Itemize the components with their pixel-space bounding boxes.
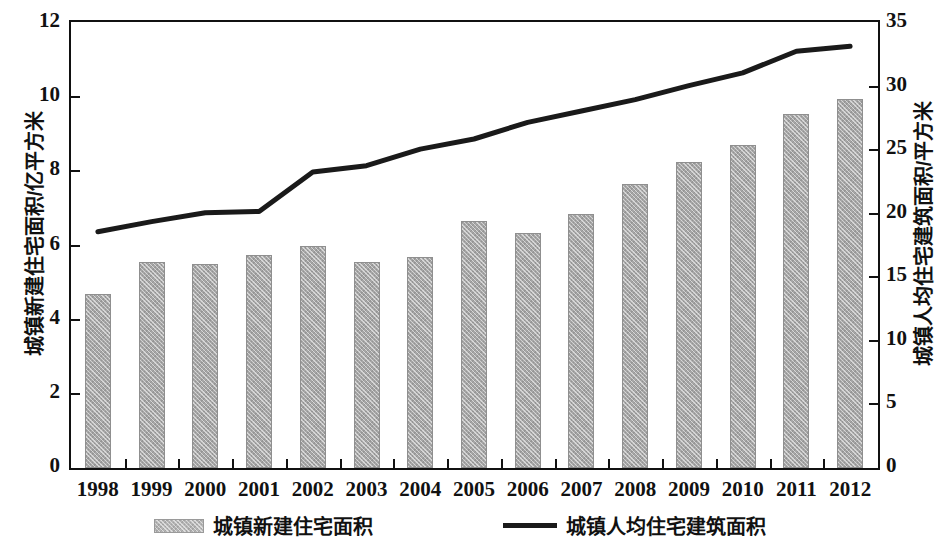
x-tick-label-2010: 2010 xyxy=(722,477,764,502)
y-tick-mark-left xyxy=(71,245,80,247)
y-tick-label-left-2: 2 xyxy=(50,381,61,402)
x-tick-mark xyxy=(125,459,127,468)
y-tick-mark-left xyxy=(71,393,80,395)
x-tick-label-2007: 2007 xyxy=(560,477,602,502)
x-tick-mark xyxy=(608,459,610,468)
y-tick-label-right-25: 25 xyxy=(886,137,907,158)
y-tick-mark-right xyxy=(869,86,878,88)
x-tick-mark xyxy=(770,459,772,468)
x-tick-label-2011: 2011 xyxy=(776,477,817,502)
y-tick-label-right-5: 5 xyxy=(886,391,897,412)
y-tick-mark-left xyxy=(71,96,80,98)
x-tick-label-1998: 1998 xyxy=(77,477,119,502)
x-tick-label-2003: 2003 xyxy=(346,477,388,502)
x-tick-label-2009: 2009 xyxy=(668,477,710,502)
line-series-path xyxy=(98,46,850,232)
x-tick-label-2002: 2002 xyxy=(292,477,334,502)
x-tick-mark xyxy=(178,459,180,468)
legend-item-bars: 城镇新建住宅面积 xyxy=(154,511,373,539)
y-tick-mark-left xyxy=(71,170,80,172)
y-tick-label-right-15: 15 xyxy=(886,264,907,285)
y-tick-label-right-30: 30 xyxy=(886,74,907,95)
line-series-layer xyxy=(71,22,877,467)
y-tick-label-left-10: 10 xyxy=(39,84,60,105)
chart-figure: 城镇新建住宅面积/亿平方米 城镇人均住宅建筑面积/平方米 024681012 0… xyxy=(0,0,938,539)
plot-area xyxy=(69,20,880,470)
x-tick-mark xyxy=(340,459,342,468)
y-tick-label-left-6: 6 xyxy=(50,233,61,254)
y-tick-label-right-0: 0 xyxy=(886,455,897,476)
x-tick-label-2008: 2008 xyxy=(614,477,656,502)
chart-legend: 城镇新建住宅面积 城镇人均住宅建筑面积 xyxy=(69,512,880,539)
y-tick-mark-left xyxy=(71,319,80,321)
legend-label-bars: 城镇新建住宅面积 xyxy=(213,511,373,539)
x-tick-mark xyxy=(716,459,718,468)
legend-item-line: 城镇人均住宅建筑面积 xyxy=(503,511,766,539)
y-tick-mark-right xyxy=(869,213,878,215)
x-tick-label-2004: 2004 xyxy=(399,477,441,502)
y-tick-label-right-35: 35 xyxy=(886,10,907,31)
x-axis-tick-labels: 1998199920002001200220032004200520062007… xyxy=(69,477,880,507)
x-tick-mark xyxy=(662,459,664,468)
x-tick-label-2001: 2001 xyxy=(238,477,280,502)
y-tick-mark-right xyxy=(869,340,878,342)
x-tick-label-2012: 2012 xyxy=(829,477,871,502)
y-tick-label-left-12: 12 xyxy=(39,10,60,31)
y-tick-label-right-10: 10 xyxy=(886,328,907,349)
y-tick-mark-right xyxy=(869,149,878,151)
x-tick-mark xyxy=(823,459,825,468)
x-tick-mark xyxy=(232,459,234,468)
y-axis-left-ticks: 024681012 xyxy=(12,0,60,539)
plot-inner xyxy=(71,22,878,468)
x-tick-mark xyxy=(501,459,503,468)
y-tick-mark-right xyxy=(869,403,878,405)
y-tick-label-left-8: 8 xyxy=(50,158,61,179)
y-tick-mark-right xyxy=(869,276,878,278)
x-tick-label-2000: 2000 xyxy=(184,477,226,502)
legend-label-line: 城镇人均住宅建筑面积 xyxy=(566,511,766,539)
y-tick-label-left-0: 0 xyxy=(50,455,61,476)
legend-line-swatch-icon xyxy=(503,523,557,528)
x-tick-mark xyxy=(286,459,288,468)
x-tick-mark xyxy=(447,459,449,468)
x-tick-mark xyxy=(555,459,557,468)
x-tick-label-2005: 2005 xyxy=(453,477,495,502)
y-tick-label-right-20: 20 xyxy=(886,201,907,222)
x-tick-label-2006: 2006 xyxy=(507,477,549,502)
x-tick-label-1999: 1999 xyxy=(131,477,173,502)
x-tick-mark xyxy=(393,459,395,468)
y-axis-right-ticks: 05101520253035 xyxy=(886,0,930,539)
y-tick-label-left-4: 4 xyxy=(50,307,61,328)
legend-bar-swatch-icon xyxy=(154,519,204,533)
